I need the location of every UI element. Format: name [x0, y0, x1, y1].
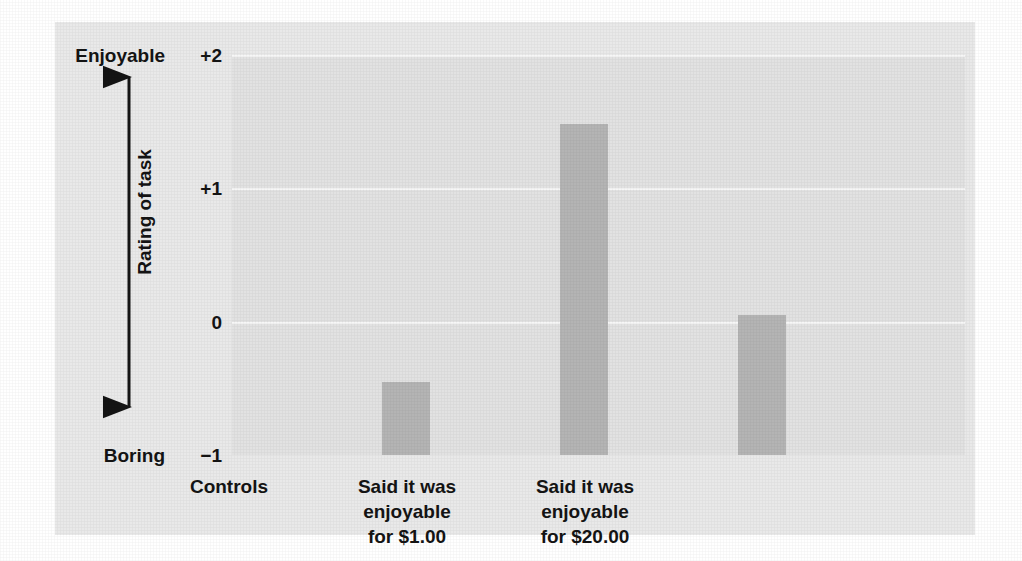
xlabel-one-dollar: Said it was enjoyable for $1.00	[307, 474, 507, 549]
ytick-plus1: +1	[176, 179, 222, 198]
xlabel-twenty-dollar: Said it was enjoyable for $20.00	[485, 474, 685, 549]
plot-area	[232, 55, 965, 455]
xlabel-one-dollar-line1: Said it was	[307, 474, 507, 499]
xlabel-one-dollar-line3: for $1.00	[307, 524, 507, 549]
bar-controls	[382, 382, 430, 455]
bar-one-dollar	[560, 124, 608, 455]
xlabel-twenty-dollar-line1: Said it was	[485, 474, 685, 499]
figure-panel: +2 +1 0 −1 Enjoyable Boring Rating of ta…	[55, 22, 975, 535]
y-axis-title: Rating of task	[130, 142, 160, 282]
ytick-minus1: −1	[176, 446, 222, 465]
ytick-zero: 0	[176, 313, 222, 332]
gridline-plus2	[232, 55, 965, 57]
bar-twenty-dollar	[738, 315, 786, 455]
xlabel-controls-line1: Controls	[129, 474, 329, 499]
xlabel-twenty-dollar-line2: enjoyable	[485, 499, 685, 524]
xlabel-controls: Controls	[129, 474, 329, 499]
anchor-label-boring: Boring	[40, 446, 165, 465]
xlabel-one-dollar-line2: enjoyable	[307, 499, 507, 524]
xlabel-twenty-dollar-line3: for $20.00	[485, 524, 685, 549]
ytick-plus2: +2	[176, 46, 222, 65]
